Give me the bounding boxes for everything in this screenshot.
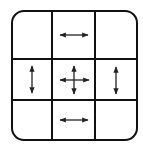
four-way-arrow-icon (60, 66, 89, 94)
nine-slice-diagram (0, 0, 143, 153)
